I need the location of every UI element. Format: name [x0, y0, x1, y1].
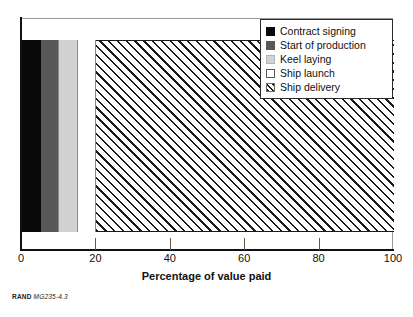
x-axis-tick-label-100: 100 — [384, 252, 402, 264]
source-caption-org: RAND — [12, 293, 32, 300]
legend-label-ship-delivery: Ship delivery — [280, 80, 340, 94]
bar-segment-ship-launch[interactable] — [78, 40, 97, 232]
legend: Contract signing Start of production Kee… — [260, 19, 393, 99]
bar-segment-keel-laying[interactable] — [59, 40, 78, 232]
x-axis-tick-80 — [319, 238, 320, 250]
figure-container: 020406080100 Percentage of value paid Co… — [0, 0, 413, 317]
x-axis-tick-40 — [170, 238, 171, 250]
legend-swatch-ship-launch-icon — [266, 69, 275, 78]
legend-swatch-ship-delivery-icon — [266, 83, 275, 92]
legend-item-ship-launch[interactable]: Ship launch — [266, 66, 387, 80]
x-axis-tick-label-60: 60 — [238, 252, 250, 264]
legend-item-ship-delivery[interactable]: Ship delivery — [266, 80, 387, 94]
x-axis-title: Percentage of value paid — [0, 270, 413, 282]
legend-item-contract-signing[interactable]: Contract signing — [266, 24, 387, 38]
bar-segment-contract-signing[interactable] — [22, 40, 41, 232]
x-axis-tick-label-40: 40 — [164, 252, 176, 264]
legend-item-keel-laying[interactable]: Keel laying — [266, 52, 387, 66]
bar-segment-start-of-production[interactable] — [41, 40, 60, 232]
legend-item-start-of-production[interactable]: Start of production — [266, 38, 387, 52]
source-caption: RAND MG235-4.3 — [12, 293, 68, 300]
x-axis-line — [20, 249, 394, 251]
x-axis-tick-label-20: 20 — [89, 252, 101, 264]
x-axis-tick-label-80: 80 — [312, 252, 324, 264]
legend-label-contract-signing: Contract signing — [280, 24, 356, 38]
legend-label-start-of-production: Start of production — [280, 38, 366, 52]
legend-label-keel-laying: Keel laying — [280, 52, 331, 66]
legend-label-ship-launch: Ship launch — [280, 66, 335, 80]
legend-swatch-start-of-production-icon — [266, 41, 275, 50]
legend-swatch-keel-laying-icon — [266, 55, 275, 64]
legend-swatch-contract-signing-icon — [266, 27, 275, 36]
source-caption-id: MG235-4.3 — [34, 293, 68, 300]
x-axis-tick-20 — [95, 238, 96, 250]
x-axis-tick-label-0: 0 — [18, 252, 24, 264]
x-axis-tick-60 — [244, 238, 245, 250]
